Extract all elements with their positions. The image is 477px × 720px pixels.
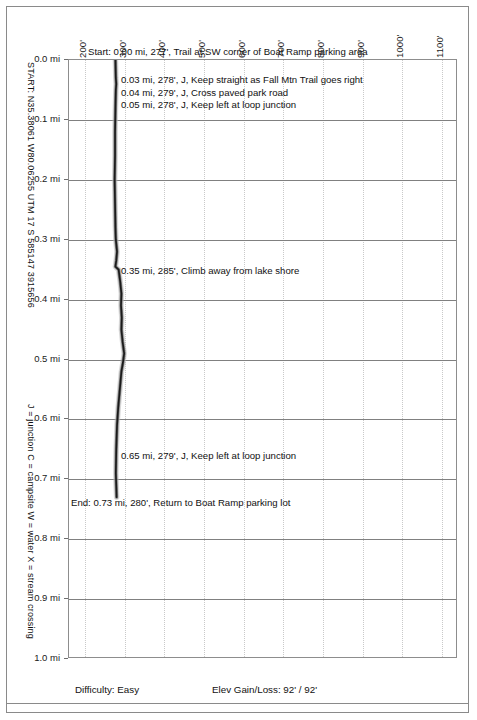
start-coordinates-label: START: N35.38061 W80.06255 UTM 17 S 5851…	[26, 62, 36, 308]
mile-tick-label-0.8: 0.8 mi	[16, 532, 60, 543]
mile-tick-mark-1.0	[64, 658, 68, 659]
elevation-tick-1000: 1000'	[394, 35, 405, 58]
mile-tick-label-0.0: 0.0 mi	[16, 53, 60, 64]
elevation-trace	[69, 60, 457, 658]
mile-tick-label-0.4: 0.4 mi	[16, 293, 60, 304]
trail-profile-page: START: N35.38061 W80.06255 UTM 17 S 5851…	[0, 0, 477, 720]
elevation-plot-area: 0.03 mi, 278', J, Keep straight as Fall …	[68, 59, 457, 658]
annotation-wp-004: 0.04 mi, 279', J, Cross paved park road	[121, 87, 288, 100]
annotation-wp-003: 0.03 mi, 278', J, Keep straight as Fall …	[121, 74, 363, 87]
mile-tick-label-0.5: 0.5 mi	[16, 353, 60, 364]
mile-tick-label-0.1: 0.1 mi	[16, 113, 60, 124]
mile-tick-label-0.2: 0.2 mi	[16, 173, 60, 184]
elevation-tick-1100: 1100'	[434, 35, 445, 58]
elev-gain-loss-label: Elev Gain/Loss: 92' / 92'	[212, 684, 317, 695]
footer-divider	[6, 703, 469, 704]
mile-tick-label-0.9: 0.9 mi	[16, 592, 60, 603]
legend-key-label: J = junction C = campsite W = water X = …	[26, 404, 36, 639]
mile-tick-label-0.6: 0.6 mi	[16, 412, 60, 423]
difficulty-label: Difficulty: Easy	[75, 684, 139, 695]
mile-tick-label-1.0: 1.0 mi	[16, 652, 60, 663]
annotation-end: End: 0.73 mi, 280', Return to Boat Ramp …	[71, 497, 290, 510]
annotation-wp-065: 0.65 mi, 279', J, Keep left at loop junc…	[121, 450, 296, 463]
mile-tick-label-0.7: 0.7 mi	[16, 472, 60, 483]
annotation-wp-005: 0.05 mi, 278', J, Keep left at loop junc…	[121, 99, 296, 112]
elevation-tick-200: 200'	[77, 40, 88, 58]
annotation-wp-035: 0.35 mi, 285', Climb away from lake shor…	[121, 265, 299, 278]
mile-tick-label-0.3: 0.3 mi	[16, 233, 60, 244]
annotation-start: Start: 0.00 mi, 277', Trail at SW corner…	[88, 46, 368, 57]
